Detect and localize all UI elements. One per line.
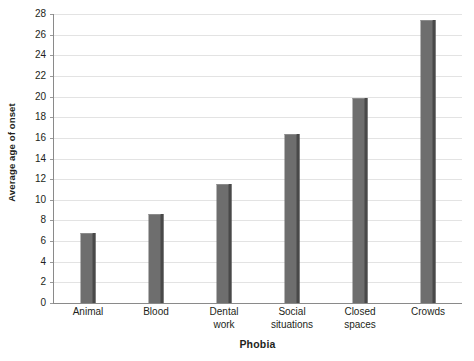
bars-layer <box>54 14 462 303</box>
y-tick-mark <box>50 262 53 263</box>
bar-top-highlight <box>149 214 161 215</box>
y-tick-label: 26 <box>35 30 46 40</box>
y-tick-label: 24 <box>35 50 46 60</box>
x-tick-label: Closed spaces <box>325 306 395 331</box>
y-tick-label: 6 <box>40 236 46 246</box>
x-tick-label: Animal <box>53 306 123 319</box>
y-tick-mark <box>50 117 53 118</box>
x-axis-tick-labels: AnimalBloodDental workSocial situationsC… <box>54 306 462 342</box>
x-tick-label: Crowds <box>393 306 463 319</box>
y-tick-mark <box>50 76 53 77</box>
bar-slot <box>122 14 190 303</box>
y-tick-mark <box>50 159 53 160</box>
x-tick-label: Dental work <box>189 306 259 331</box>
y-tick-mark <box>50 179 53 180</box>
y-tick-mark <box>50 35 53 36</box>
y-tick-mark <box>50 97 53 98</box>
bar-chart: Average age of onset 0246810121416182022… <box>0 0 474 361</box>
y-tick-label: 2 <box>40 277 46 287</box>
y-tick-label: 0 <box>40 298 46 308</box>
y-tick-mark <box>50 241 53 242</box>
bar-top-highlight <box>285 134 297 135</box>
bar <box>149 214 164 303</box>
x-tick-label: Blood <box>121 306 191 319</box>
x-axis-title: Phobia <box>53 338 462 350</box>
bar-top-highlight <box>353 98 365 99</box>
plot-area <box>53 14 462 304</box>
y-axis-tick-labels: 0246810121416182022242628 <box>22 14 50 304</box>
y-tick-mark <box>50 55 53 56</box>
bar <box>217 184 232 303</box>
y-tick-mark <box>50 138 53 139</box>
bar <box>353 98 368 303</box>
y-axis-title-text: Average age of onset <box>6 103 17 202</box>
y-tick-label: 16 <box>35 133 46 143</box>
bar-slot <box>190 14 258 303</box>
y-tick-mark <box>50 200 53 201</box>
x-axis-line <box>53 303 462 304</box>
bar-top-highlight <box>81 233 93 234</box>
bar <box>421 20 436 303</box>
y-tick-label: 22 <box>35 71 46 81</box>
bar-slot <box>326 14 394 303</box>
x-tick-label: Social situations <box>257 306 327 331</box>
y-tick-label: 12 <box>35 174 46 184</box>
y-tick-label: 10 <box>35 195 46 205</box>
y-tick-label: 14 <box>35 154 46 164</box>
y-tick-label: 18 <box>35 112 46 122</box>
bar-slot <box>394 14 462 303</box>
bar <box>285 134 300 303</box>
y-tick-mark <box>50 220 53 221</box>
bar <box>81 233 96 303</box>
bar-slot <box>258 14 326 303</box>
bar-slot <box>54 14 122 303</box>
y-tick-mark <box>50 14 53 15</box>
y-tick-label: 20 <box>35 92 46 102</box>
y-tick-label: 28 <box>35 9 46 19</box>
bar-top-highlight <box>421 20 433 21</box>
y-tick-mark <box>50 282 53 283</box>
y-tick-label: 4 <box>40 257 46 267</box>
y-axis-title: Average age of onset <box>0 0 22 305</box>
bar-top-highlight <box>217 184 229 185</box>
y-tick-label: 8 <box>40 215 46 225</box>
